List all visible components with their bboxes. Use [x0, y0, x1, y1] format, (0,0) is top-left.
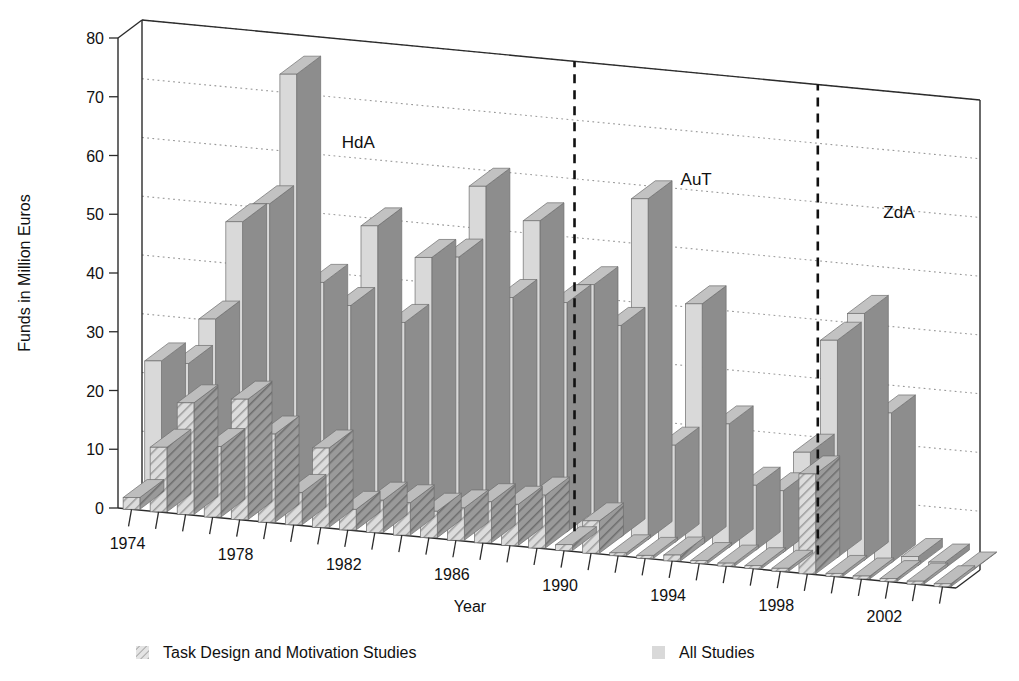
x-tick-1996 — [723, 566, 726, 583]
x-tick-1988 — [507, 545, 510, 562]
x-tick-2001 — [858, 579, 861, 596]
x-tick-1992 — [615, 556, 618, 573]
era-label-ZdA: ZdA — [883, 203, 915, 222]
x-tick-1975 — [156, 512, 159, 529]
x-tick-2003 — [912, 584, 915, 601]
x-tick-1990 — [561, 551, 564, 568]
y-tick-label-10: 10 — [86, 441, 104, 458]
x-tick-1993 — [642, 558, 645, 575]
era-labels-group: HdAAuTZdA — [342, 133, 915, 222]
chart-figure: HdAAuTZdA 01020304050607080Funds in Mill… — [0, 0, 1019, 681]
era-label-AuT: AuT — [681, 170, 712, 189]
x-tick-2000 — [831, 576, 834, 593]
x-tick-1982 — [345, 530, 348, 547]
y-tick-label-30: 30 — [86, 324, 104, 341]
x-tick-label-1978: 1978 — [218, 546, 254, 563]
x-tick-label-1974: 1974 — [110, 535, 146, 552]
y-axis-title: Funds in Million Euros — [16, 194, 33, 351]
bars-group — [123, 56, 996, 587]
x-tick-label-1998: 1998 — [758, 597, 794, 614]
x-tick-1989 — [534, 548, 537, 565]
y-tick-label-50: 50 — [86, 206, 104, 223]
legend-label-2: All Studies — [679, 644, 755, 661]
frame-back-top — [142, 20, 980, 100]
x-tick-1995 — [696, 563, 699, 580]
legend-swatch-1 — [136, 646, 149, 659]
x-tick-1977 — [210, 517, 213, 534]
y-tick-label-80: 80 — [86, 30, 104, 47]
x-tick-1999 — [804, 574, 807, 591]
x-tick-1976 — [183, 514, 186, 531]
x-tick-1979 — [264, 522, 267, 539]
x-tick-1980 — [291, 525, 294, 542]
x-tick-1978 — [237, 520, 240, 537]
x-tick-1991 — [588, 553, 591, 570]
x-tick-1994 — [669, 561, 672, 578]
x-tick-1981 — [318, 527, 321, 544]
x-tick-1987 — [480, 543, 483, 560]
y-tick-label-60: 60 — [86, 148, 104, 165]
x-tick-1985 — [426, 538, 429, 555]
x-tick-1974 — [129, 509, 132, 526]
frame-top-depth — [118, 20, 142, 38]
legend-item-1: Task Design and Motivation Studies — [136, 644, 416, 661]
era-label-HdA: HdA — [342, 133, 376, 152]
x-tick-label-1986: 1986 — [434, 566, 470, 583]
x-tick-label-2002: 2002 — [867, 608, 903, 625]
bar-chart-3d: HdAAuTZdA 01020304050607080Funds in Mill… — [0, 0, 1019, 681]
y-axis-group: 01020304050607080Funds in Million Euros — [16, 30, 118, 517]
x-tick-1986 — [453, 540, 456, 557]
y-tick-label-0: 0 — [95, 500, 104, 517]
y-tick-label-70: 70 — [86, 89, 104, 106]
x-tick-1998 — [777, 571, 780, 588]
legend-group: Task Design and Motivation StudiesAll St… — [136, 644, 755, 661]
y-tick-label-20: 20 — [86, 383, 104, 400]
x-tick-2002 — [885, 582, 888, 599]
legend-swatch-2 — [652, 646, 665, 659]
legend-item-2: All Studies — [652, 644, 755, 661]
x-tick-1997 — [750, 569, 753, 586]
legend-label-1: Task Design and Motivation Studies — [163, 644, 416, 661]
x-tick-2004 — [939, 587, 942, 604]
y-tick-label-40: 40 — [86, 265, 104, 282]
x-tick-1984 — [399, 535, 402, 552]
x-tick-label-1990: 1990 — [542, 577, 578, 594]
gridline-70 — [142, 79, 980, 159]
x-tick-1983 — [372, 533, 375, 550]
x-tick-label-1994: 1994 — [650, 587, 686, 604]
x-axis-title: Year — [454, 598, 487, 615]
x-tick-label-1982: 1982 — [326, 556, 362, 573]
